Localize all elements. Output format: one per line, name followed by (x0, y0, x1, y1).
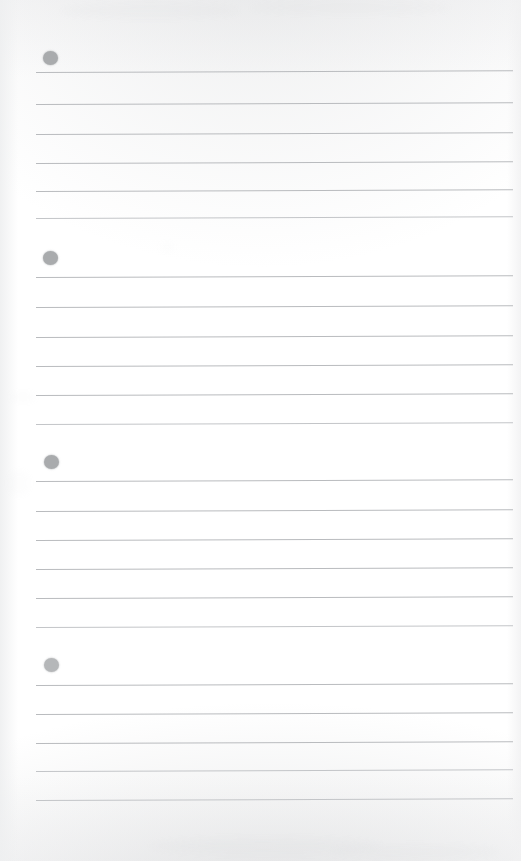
rule-line (36, 216, 513, 219)
rule-line (36, 741, 513, 744)
note-content-area (0, 0, 521, 861)
rule-line (36, 393, 513, 396)
rule-line (36, 161, 513, 164)
rule-line (36, 275, 513, 278)
rule-line (36, 538, 513, 541)
rule-line (36, 769, 513, 772)
rule-line (36, 567, 513, 570)
bullet-point-icon (44, 658, 59, 672)
rule-line (36, 102, 513, 105)
rule-line (36, 132, 513, 135)
rule-line (36, 712, 513, 715)
rule-line (36, 479, 513, 482)
rule-line (36, 683, 513, 686)
rule-line (36, 798, 513, 801)
rule-line (36, 189, 513, 192)
rule-line (36, 70, 513, 73)
rule-line (36, 596, 513, 599)
rule-line (36, 305, 513, 308)
scanned-note-page (0, 0, 521, 861)
rule-line (36, 509, 513, 512)
bullet-point-icon (44, 455, 59, 469)
bullet-point-icon (43, 51, 58, 65)
rule-line (36, 364, 513, 367)
rule-line (36, 625, 513, 628)
rule-line (36, 422, 513, 425)
rule-line (36, 335, 513, 338)
bullet-point-icon (43, 251, 58, 265)
